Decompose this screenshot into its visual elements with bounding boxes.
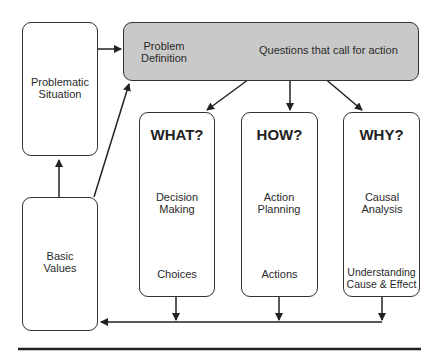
basic-values-label: Basic Values [34,250,86,274]
problem-definition-label: Problem Definition [138,40,190,64]
causal-analysis-label: Causal Analysis [350,191,414,215]
what-title: WHAT? [139,127,215,143]
choices-label: Choices [139,268,215,280]
action-planning-label: Action Planning [247,191,311,215]
questions-label: Questions that call for action [259,44,409,56]
how-title: HOW? [241,127,318,143]
actions-label: Actions [241,268,318,280]
cause-effect-label: Understanding Cause & Effect [344,266,419,290]
problematic-situation-label: Problematic Situation [24,76,96,100]
why-title: WHY? [343,127,420,143]
decision-making-label: Decision Making [145,191,209,215]
